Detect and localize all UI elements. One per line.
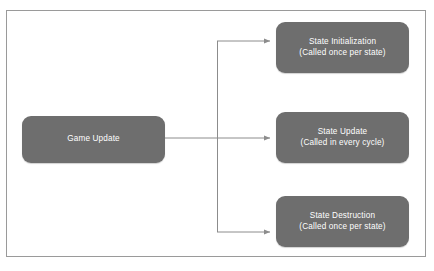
node-state-initialization-subtitle: (Called once per state) (299, 48, 385, 59)
node-state-update-subtitle: (Called in every cycle) (301, 138, 385, 149)
node-game-update[interactable]: Game Update (22, 116, 165, 163)
node-state-initialization[interactable]: State Initialization (Called once per st… (276, 22, 409, 73)
diagram-canvas: Game Update State Initialization (Called… (0, 0, 434, 271)
node-state-destruction-subtitle: (Called once per state) (299, 222, 385, 233)
node-state-initialization-title: State Initialization (309, 37, 376, 48)
node-state-update-title: State Update (318, 127, 368, 138)
node-game-update-title: Game Update (67, 134, 120, 145)
node-state-destruction-title: State Destruction (310, 211, 375, 222)
node-state-destruction[interactable]: State Destruction (Called once per state… (276, 196, 409, 247)
node-state-update[interactable]: State Update (Called in every cycle) (276, 112, 409, 163)
